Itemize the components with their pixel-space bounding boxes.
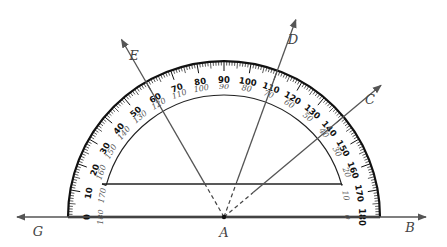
tick-mark bbox=[338, 115, 341, 118]
tick-mark bbox=[337, 113, 340, 116]
tick-mark bbox=[83, 151, 89, 154]
tick-mark bbox=[128, 94, 131, 98]
tick-mark bbox=[104, 117, 112, 123]
tick-mark bbox=[130, 92, 133, 96]
ray-AE-hidden bbox=[205, 184, 224, 217]
point-A-dot bbox=[222, 215, 226, 219]
tick-mark bbox=[139, 86, 141, 90]
tick-mark bbox=[359, 151, 365, 154]
tick-mark bbox=[333, 109, 336, 112]
tick-mark bbox=[108, 113, 111, 116]
tick-mark bbox=[103, 119, 106, 122]
tick-mark bbox=[307, 86, 309, 90]
tick-mark bbox=[318, 97, 324, 105]
tick-mark bbox=[313, 91, 316, 95]
label-A: A bbox=[218, 225, 228, 240]
tick-mark bbox=[297, 82, 302, 91]
tick-mark bbox=[92, 134, 96, 136]
tick-mark bbox=[120, 101, 123, 104]
tick-mark bbox=[98, 125, 102, 128]
tick-mark bbox=[287, 76, 290, 82]
tick-mark bbox=[106, 115, 109, 118]
tick-mark bbox=[141, 85, 143, 89]
tick-mark bbox=[118, 103, 121, 106]
tick-mark bbox=[158, 76, 161, 82]
inner-scale-number: 100 bbox=[193, 83, 210, 95]
tick-mark bbox=[323, 99, 326, 102]
tick-mark bbox=[124, 97, 130, 105]
tick-mark bbox=[137, 88, 140, 92]
tick-mark bbox=[342, 119, 345, 122]
tick-mark bbox=[345, 123, 349, 126]
label-G: G bbox=[33, 224, 43, 239]
inner-scale-number: 10 bbox=[340, 190, 351, 202]
tick-mark bbox=[335, 111, 338, 114]
tick-mark bbox=[132, 91, 135, 95]
ray-AC bbox=[253, 85, 381, 192]
tick-mark bbox=[309, 88, 312, 92]
tick-mark bbox=[327, 103, 330, 106]
tick-mark bbox=[93, 132, 97, 134]
tick-mark bbox=[317, 94, 320, 98]
tick-mark bbox=[77, 164, 86, 167]
tick-mark bbox=[122, 99, 125, 102]
tick-mark bbox=[329, 105, 332, 108]
tick-mark bbox=[112, 109, 115, 112]
tick-mark bbox=[171, 70, 174, 79]
tick-mark bbox=[101, 121, 105, 124]
inner-scale-number: 80 bbox=[241, 83, 253, 94]
tick-mark bbox=[99, 123, 103, 126]
ray-AC-hidden bbox=[224, 193, 253, 217]
outer-scale-number: 10 bbox=[83, 186, 95, 199]
tick-mark bbox=[304, 85, 306, 89]
label-C: C bbox=[365, 92, 375, 107]
tick-mark bbox=[184, 66, 186, 73]
label-B: B bbox=[404, 220, 415, 235]
tick-mark bbox=[361, 164, 370, 167]
inner-scale-number: 90 bbox=[219, 82, 229, 91]
tick-mark bbox=[249, 63, 251, 73]
tick-mark bbox=[350, 139, 359, 144]
inner-scale-number: 170 bbox=[97, 187, 109, 204]
tick-mark bbox=[343, 121, 347, 124]
tick-mark bbox=[95, 130, 99, 133]
tick-mark bbox=[368, 190, 378, 192]
tick-mark bbox=[70, 190, 80, 192]
tick-mark bbox=[116, 105, 119, 108]
tick-mark bbox=[126, 96, 129, 99]
protractor: 1801701601501401301201101009080706050403… bbox=[68, 61, 380, 226]
tick-mark bbox=[319, 96, 322, 99]
tick-mark bbox=[89, 139, 98, 144]
tick-mark bbox=[352, 134, 356, 136]
protractor-diagram: 1801701601501401301201101009080706050403… bbox=[0, 0, 447, 247]
tick-mark bbox=[110, 111, 113, 114]
outer-scale-number: 170 bbox=[353, 184, 366, 203]
tick-mark bbox=[197, 63, 199, 73]
tick-mark bbox=[350, 130, 354, 133]
label-D: D bbox=[287, 32, 299, 47]
tick-mark bbox=[347, 125, 351, 128]
tick-mark bbox=[263, 66, 265, 73]
tick-mark bbox=[73, 177, 80, 179]
tick-mark bbox=[315, 92, 318, 96]
label-E: E bbox=[128, 48, 139, 63]
tick-mark bbox=[368, 177, 375, 179]
tick-mark bbox=[325, 101, 328, 104]
tick-mark bbox=[351, 132, 355, 134]
diagram-canvas: 1801701601501401301201101009080706050403… bbox=[0, 0, 447, 247]
